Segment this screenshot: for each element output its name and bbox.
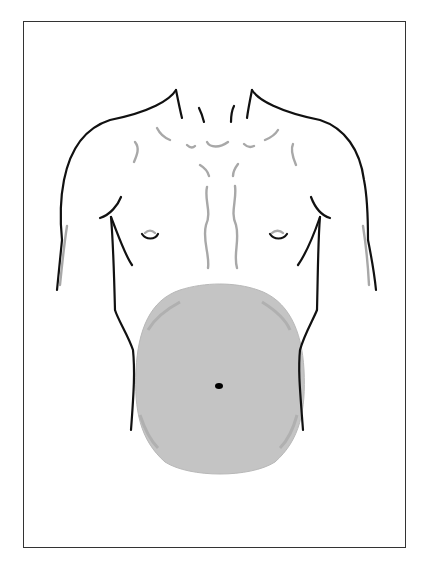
abdomen-shaded-region <box>136 284 305 474</box>
torso-illustration <box>0 0 428 570</box>
navel <box>215 383 223 389</box>
muscle-lines <box>60 128 369 285</box>
